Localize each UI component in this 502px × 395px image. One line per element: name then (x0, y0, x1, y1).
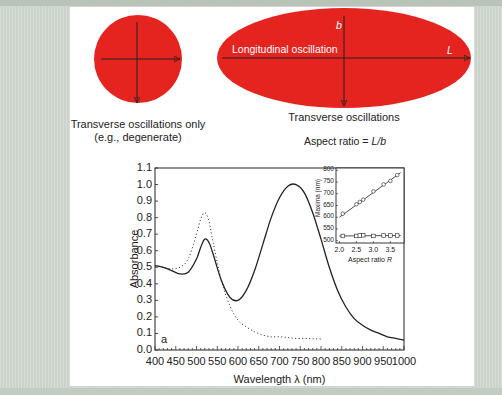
x-tick-label: 400 (146, 356, 164, 367)
x-axis-title: Wavelength λ (nm) (234, 374, 326, 385)
inset-y-tick: 500 (323, 237, 334, 244)
x-tick-label: 950 (374, 356, 392, 367)
x-tick-label: 800 (312, 356, 330, 367)
x-tick-label: 500 (187, 356, 205, 367)
x-tick-label: 1000 (392, 356, 416, 367)
absorbance-chart (0, 0, 502, 395)
x-tick-label: 900 (353, 356, 371, 367)
y-tick-label: 0.2 (137, 311, 152, 322)
inset-y-tick: 550 (323, 225, 334, 232)
inset-x-tick: 2.0 (335, 246, 345, 253)
y-tick-label: 0.0 (137, 344, 152, 355)
y-tick-label: 0.1 (137, 327, 152, 338)
y-tick-label: 1.1 (137, 162, 152, 173)
inset-x-tick: 3.5 (386, 246, 396, 253)
inset-y-tick: 700 (323, 190, 334, 197)
x-tick-label: 550 (208, 356, 226, 367)
y-tick-label: 0.8 (137, 212, 152, 223)
x-tick-label: 450 (167, 356, 185, 367)
inset-y-tick: 750 (323, 178, 334, 185)
x-tick-label: 850 (333, 356, 351, 367)
x-tick-label: 750 (291, 356, 309, 367)
inset-x-title: Aspect ratio R (348, 256, 392, 263)
series-dotted (155, 213, 321, 339)
inset-x-tick: 3.0 (369, 246, 379, 253)
inset-y-tick: 600 (323, 213, 334, 220)
x-tick-label: 650 (250, 356, 268, 367)
inset-x-tick: 2.5 (352, 246, 362, 253)
inset-y-title: Maxima (nm) (315, 179, 322, 217)
panel-label: a (161, 334, 167, 345)
x-tick-label: 700 (270, 356, 288, 367)
inset-y-tick: 800 (323, 166, 334, 173)
y-tick-label: 1.0 (137, 179, 152, 190)
y-tick-label: 0.3 (137, 294, 152, 305)
y-tick-label: 0.9 (137, 195, 152, 206)
inset-y-tick: 650 (323, 202, 334, 209)
y-axis-title: Absorbance (129, 230, 140, 289)
x-tick-label: 600 (229, 356, 247, 367)
